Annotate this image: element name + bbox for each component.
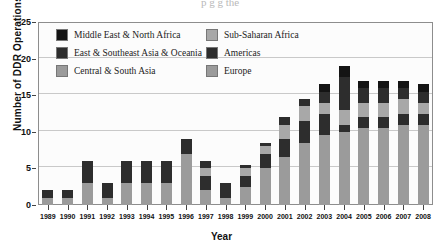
bar-segment [260, 190, 271, 205]
x-tick-label: 2008 [415, 213, 431, 220]
x-tick-mark [127, 205, 128, 210]
cut-off-title: p g g the [60, 0, 380, 8]
x-tick-label: 1991 [80, 213, 96, 220]
bar-segment [299, 99, 310, 106]
legend: Middle East & North AfricaSub-Saharan Af… [56, 26, 356, 80]
bar-segment [319, 84, 330, 91]
y-tick-mark [32, 59, 36, 60]
bar-segment [260, 168, 271, 190]
bar-segment [279, 139, 290, 157]
legend-swatch-icon [56, 65, 68, 77]
legend-item[interactable]: Sub-Saharan Africa [206, 29, 356, 41]
bar-2005[interactable] [358, 81, 369, 205]
x-tick-label: 2003 [317, 213, 333, 220]
bar-segment [141, 183, 152, 205]
bar-segment [299, 121, 310, 143]
x-tick-label: 1998 [218, 213, 234, 220]
bar-segment [240, 176, 251, 187]
bar-segment [358, 103, 369, 118]
bar-1989[interactable] [42, 190, 53, 205]
legend-swatch-icon [206, 65, 218, 77]
bar-segment [378, 81, 389, 88]
bar-2001[interactable] [279, 117, 290, 205]
y-tick-label: 5 [26, 163, 31, 173]
bar-segment [418, 84, 429, 91]
legend-item[interactable]: East & Southeast Asia & Oceania [56, 47, 206, 59]
bar-segment [418, 103, 429, 114]
bar-segment [279, 117, 290, 124]
bar-segment [161, 183, 172, 205]
bar-segment [62, 190, 73, 197]
legend-item[interactable]: Europe [206, 65, 356, 77]
bar-segment [220, 183, 231, 198]
bar-1990[interactable] [62, 190, 73, 205]
bar-segment [42, 190, 53, 197]
x-tick-label: 1990 [60, 213, 76, 220]
bar-segment [339, 139, 350, 205]
x-tick-label: 1993 [119, 213, 135, 220]
legend-item[interactable]: Central & South Asia [56, 65, 206, 77]
x-tick-mark [48, 205, 49, 210]
bar-2008[interactable] [418, 84, 429, 205]
bar-segment [378, 117, 389, 128]
bar-segment [319, 135, 330, 146]
legend-label: Americas [224, 48, 260, 58]
bar-segment [220, 198, 231, 205]
bar-2000[interactable] [260, 143, 271, 205]
x-tick-mark [265, 205, 266, 210]
bar-1997[interactable] [200, 161, 211, 205]
legend-label: East & Southeast Asia & Oceania [74, 48, 202, 58]
bar-segment [260, 146, 271, 153]
bar-segment [200, 168, 211, 175]
bar-1994[interactable] [141, 161, 152, 205]
bar-1998[interactable] [220, 183, 231, 205]
x-tick-mark [107, 205, 108, 210]
x-tick-mark [87, 205, 88, 210]
bar-2004[interactable] [339, 66, 350, 205]
bar-1992[interactable] [102, 183, 113, 205]
bar-segment [319, 103, 330, 114]
bar-segment [418, 114, 429, 125]
y-axis-title: Number of DDR Operations [12, 0, 23, 139]
bar-segment [82, 183, 93, 205]
bar-1991[interactable] [82, 161, 93, 205]
y-tick-mark [32, 95, 36, 96]
bar-2003[interactable] [319, 84, 330, 205]
x-tick-mark [166, 205, 167, 210]
bar-segment [299, 161, 310, 205]
legend-swatch-icon [206, 29, 218, 41]
legend-item[interactable]: Americas [206, 47, 356, 59]
bar-segment [181, 139, 192, 154]
bar-2007[interactable] [398, 81, 409, 205]
bar-1993[interactable] [121, 161, 132, 205]
x-tick-label: 1996 [178, 213, 194, 220]
bar-segment [398, 125, 409, 140]
x-tick-label: 1997 [198, 213, 214, 220]
bar-1999[interactable] [240, 165, 251, 205]
bar-2002[interactable] [299, 99, 310, 205]
bar-segment [141, 161, 152, 183]
chart-figure: p g g the 0510152025 Number of DDR Opera… [0, 0, 443, 249]
x-tick-mark [324, 205, 325, 210]
bar-segment [358, 81, 369, 88]
bar-segment [358, 117, 369, 128]
x-tick-mark [384, 205, 385, 210]
x-tick-mark [344, 205, 345, 210]
x-tick-label: 2001 [277, 213, 293, 220]
x-tick-label: 2004 [336, 213, 352, 220]
bar-segment [102, 183, 113, 198]
bar-segment [299, 143, 310, 161]
x-tick-mark [285, 205, 286, 210]
bar-segment [398, 81, 409, 88]
bar-1996[interactable] [181, 139, 192, 205]
legend-item[interactable]: Middle East & North Africa [56, 29, 206, 41]
bar-segment [378, 88, 389, 103]
bar-2006[interactable] [378, 81, 389, 205]
bar-segment [378, 128, 389, 139]
x-tick-label: 1999 [238, 213, 254, 220]
x-axis-labels: 1989199019911992199319941995199619971998… [38, 213, 433, 227]
bar-1995[interactable] [161, 161, 172, 205]
x-tick-mark [147, 205, 148, 210]
bar-segment [161, 161, 172, 183]
bar-segment [319, 146, 330, 205]
